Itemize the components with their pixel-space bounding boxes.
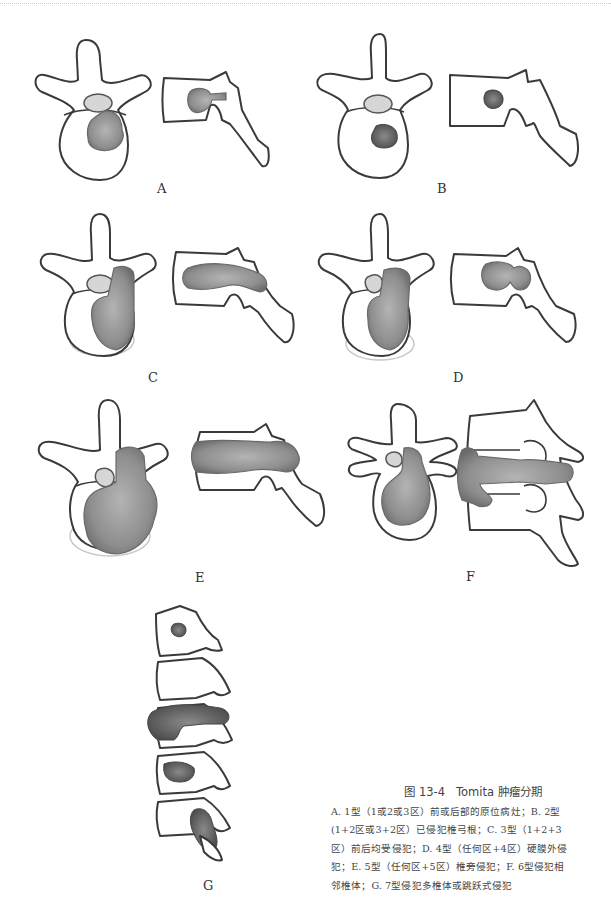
panel-b: B (300, 30, 600, 205)
panel-a: A (30, 30, 310, 205)
panel-label-b: B (437, 181, 447, 196)
caption-line: (1+2区或3+2区）已侵犯椎弓根；C. 3型（1+2+3 (331, 821, 601, 839)
vertebra-axial-icon (300, 30, 600, 205)
panel-e: E (30, 390, 360, 585)
figure-number: 图 13-4 (404, 785, 445, 799)
vertebra-axial-icon (30, 390, 360, 585)
panel-g: G (140, 600, 280, 900)
vertebra-multi-level-icon (340, 390, 611, 585)
panel-d: D (300, 210, 600, 385)
panel-f: F (340, 390, 611, 585)
caption-line: 犯；E. 5型（任何区+5区）椎旁侵犯；F. 6型侵犯相 (331, 858, 601, 876)
panel-label-g: G (203, 878, 213, 893)
page-top-border (0, 3, 611, 4)
panel-label-a: A (157, 181, 166, 196)
caption-line: 区）前后均受侵犯；D. 4型（任何区+4区）硬膜外侵 (331, 840, 601, 858)
figure-title-text: Tomita 肿瘤分期 (456, 785, 542, 799)
figure-caption: 图 13-4 Tomita 肿瘤分期 A. 1型（1或2或3区）前或后部的原位病… (331, 783, 601, 895)
caption-line: A. 1型（1或2或3区）前或后部的原位病灶；B. 2型 (331, 803, 601, 821)
panel-label-c: C (148, 370, 158, 385)
panel-label-d: D (453, 370, 463, 385)
caption-body: A. 1型（1或2或3区）前或后部的原位病灶；B. 2型 (1+2区或3+2区）… (331, 803, 601, 895)
panel-label-f: F (466, 569, 475, 584)
vertebra-axial-icon (30, 210, 320, 385)
figure-title: 图 13-4 Tomita 肿瘤分期 (331, 783, 601, 799)
panel-label-e: E (195, 570, 205, 585)
spine-column-icon (140, 600, 280, 860)
panel-c: C (30, 210, 320, 385)
vertebra-axial-icon (300, 210, 600, 385)
vertebra-axial-icon (30, 30, 310, 205)
caption-line: 邻椎体；G. 7型侵犯多椎体或跳跃式侵犯 (331, 877, 601, 895)
